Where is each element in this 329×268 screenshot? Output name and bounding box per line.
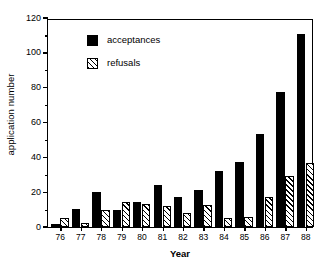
legend-item-refusals: refusals — [87, 57, 160, 69]
y-tick-label: 120 — [26, 14, 41, 23]
bar-acceptances — [174, 197, 182, 227]
bar-refusals — [203, 205, 211, 227]
legend-swatch-refusals — [87, 58, 98, 69]
bar-acceptances — [133, 202, 141, 227]
bar-refusals — [101, 210, 109, 227]
bar-refusals — [60, 218, 68, 227]
bar-acceptances — [72, 209, 80, 227]
bar-acceptances — [113, 210, 121, 227]
x-tick-label: 88 — [293, 233, 319, 242]
bar-refusals — [285, 176, 293, 227]
x-tick-mark — [163, 227, 164, 231]
y-tick-label: 80 — [31, 83, 41, 92]
x-tick-mark — [60, 227, 61, 231]
x-tick-mark — [203, 227, 204, 231]
bar-group — [235, 20, 252, 227]
x-tick-mark — [183, 227, 184, 231]
legend-label-acceptances: acceptances — [107, 35, 160, 45]
y-tick-label: 0 — [36, 223, 41, 232]
bar-refusals — [244, 217, 252, 227]
bar-acceptances — [92, 192, 100, 227]
bar-acceptances — [276, 92, 284, 227]
bar-group — [51, 20, 68, 227]
bar-refusals — [142, 204, 150, 227]
legend-item-acceptances: acceptances — [87, 34, 160, 46]
bar-refusals — [122, 202, 130, 227]
x-tick-mark — [142, 227, 143, 231]
bar-group — [256, 20, 273, 227]
bar-group — [297, 20, 314, 227]
x-tick-mark — [285, 227, 286, 231]
bar-acceptances — [51, 224, 59, 227]
bar-group — [194, 20, 211, 227]
legend-swatch-acceptances — [87, 35, 98, 46]
bar-refusals — [306, 163, 314, 227]
bar-acceptances — [256, 134, 264, 227]
bar-group — [215, 20, 232, 227]
x-tick-mark — [122, 227, 123, 231]
x-axis-title: Year — [47, 248, 313, 259]
bar-chart-figure: application number 020406080100120 76777… — [0, 0, 329, 268]
bar-refusals — [265, 197, 273, 227]
bar-refusals — [163, 206, 171, 227]
bar-group — [174, 20, 191, 227]
y-tick-label: 100 — [26, 48, 41, 57]
bar-acceptances — [154, 185, 162, 227]
x-tick-mark — [306, 227, 307, 231]
bar-acceptances — [194, 190, 202, 227]
x-tick-mark — [224, 227, 225, 231]
y-tick-label: 40 — [31, 153, 41, 162]
y-axis-title-text: application number — [5, 73, 16, 155]
bar-refusals — [224, 218, 232, 227]
chart-legend: acceptances refusals — [87, 34, 160, 80]
bar-acceptances — [215, 171, 223, 227]
bar-group — [276, 20, 293, 227]
bar-refusals — [183, 213, 191, 227]
bar-acceptances — [235, 162, 243, 227]
x-tick-mark — [265, 227, 266, 231]
x-tick-mark — [244, 227, 245, 231]
x-tick-mark — [101, 227, 102, 231]
y-tick-mark — [43, 17, 48, 18]
bar-acceptances — [297, 34, 305, 227]
y-axis-title: application number — [0, 0, 20, 228]
legend-label-refusals: refusals — [107, 58, 140, 68]
x-tick-mark — [81, 227, 82, 231]
y-tick-label: 20 — [31, 188, 41, 197]
y-tick-label: 60 — [31, 118, 41, 127]
